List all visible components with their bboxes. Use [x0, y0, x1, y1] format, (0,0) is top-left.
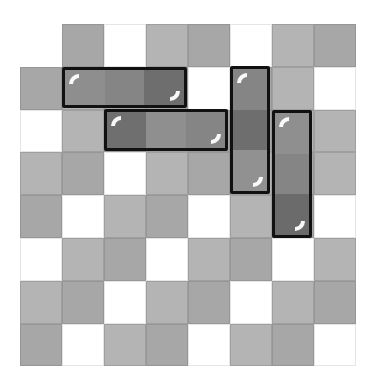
block-segment [107, 112, 147, 148]
board-cell [188, 324, 230, 367]
board-cell [146, 238, 188, 281]
board-cell [272, 24, 314, 67]
board-cell [104, 324, 146, 367]
board-cell [272, 324, 314, 367]
board-cell [104, 24, 146, 67]
board-cell [20, 238, 62, 281]
board-cell [146, 324, 188, 367]
board-cell [104, 152, 146, 195]
board-cell [20, 324, 62, 367]
board-cell [230, 24, 272, 67]
board-cell [62, 238, 104, 281]
block-segment [144, 70, 184, 105]
board-cell [188, 152, 230, 195]
board-cell [62, 281, 104, 324]
block-b-horizontal-block[interactable] [104, 109, 228, 151]
block-a-horizontal-block[interactable] [62, 67, 187, 108]
board-cell [20, 281, 62, 324]
board-cell [20, 110, 62, 153]
board-cell [20, 152, 62, 195]
board-cell [146, 24, 188, 67]
block-segment [65, 70, 105, 105]
block-segment [186, 112, 226, 148]
board-cell [230, 281, 272, 324]
board-cell [314, 195, 356, 238]
puzzle-board [0, 0, 376, 389]
board-cell [272, 238, 314, 281]
board-cell [62, 152, 104, 195]
board-cell [272, 67, 314, 110]
block-segment [233, 150, 267, 191]
board-cell [314, 152, 356, 195]
board-cell [314, 110, 356, 153]
board-cell [188, 238, 230, 281]
board-cell [230, 238, 272, 281]
board-cell [62, 110, 104, 153]
block-segment [275, 154, 309, 195]
board-cell [146, 152, 188, 195]
board-cell [230, 195, 272, 238]
board-cell [62, 24, 104, 67]
board-cell [314, 324, 356, 367]
block-segment [233, 69, 267, 110]
board-cell [314, 281, 356, 324]
board-cell [104, 195, 146, 238]
block-d-vertical-block[interactable] [272, 110, 312, 238]
block-segment [275, 194, 309, 235]
board-cell [20, 67, 62, 110]
block-segment [233, 110, 267, 151]
board-cell [188, 67, 230, 110]
board-cell [314, 238, 356, 281]
board-cell [230, 324, 272, 367]
block-c-vertical-block[interactable] [230, 66, 270, 194]
board-cell [62, 324, 104, 367]
block-segment [146, 112, 186, 148]
block-segment [105, 70, 145, 105]
board-cell [146, 281, 188, 324]
board-cell [272, 281, 314, 324]
board-cell [20, 195, 62, 238]
board-cell [188, 281, 230, 324]
block-segment [275, 113, 309, 154]
board-cell [314, 24, 356, 67]
board-cell [104, 238, 146, 281]
board-cell [104, 281, 146, 324]
board-cell [146, 195, 188, 238]
board-cell [314, 67, 356, 110]
board-cell [188, 195, 230, 238]
board-cell [62, 195, 104, 238]
board-cell [188, 24, 230, 67]
